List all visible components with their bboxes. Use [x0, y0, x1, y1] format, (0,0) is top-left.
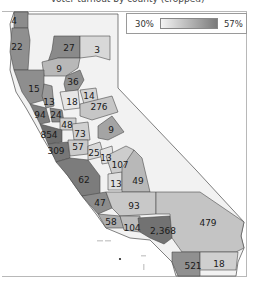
county-label-sacramento: 276 [90, 102, 107, 112]
county-label-tuolumne: 9 [108, 125, 114, 135]
county-label-humboldt: 22 [11, 42, 22, 52]
county-label-shasta: 9 [56, 64, 62, 74]
county-label-placer: 14 [83, 91, 95, 101]
county-label-tulare: 49 [132, 176, 144, 186]
county-label-butte: 36 [67, 77, 79, 87]
county-label-del-norte: 4 [11, 16, 17, 26]
county-label-ventura: 104 [123, 223, 140, 233]
county-label-stanislaus: 25 [88, 148, 99, 158]
county-label-san-diego: 521 [184, 261, 201, 271]
county-label-siskiyou: 27 [63, 43, 74, 53]
county-label-slo: 47 [94, 198, 105, 208]
county-label-kings: 13 [110, 179, 121, 189]
county-label-modoc: 3 [94, 45, 100, 55]
county-label-merced: 13 [100, 153, 111, 163]
county-label-san-bernardino: 479 [199, 218, 216, 228]
county-label-sonoma: 94 [34, 110, 46, 120]
county-label-santa-barbara: 58 [105, 217, 117, 227]
county-label-marin: 854 [40, 130, 57, 140]
county-label-mendocino: 15 [28, 84, 39, 94]
legend-min-label: 30% [135, 19, 154, 29]
county-label-los-angeles: 2,368 [150, 226, 176, 236]
county-label-monterey: 62 [78, 175, 89, 185]
county-label-alameda: 57 [72, 142, 83, 152]
california-county-map: 4222739153613181427694244885473309579251… [0, 0, 255, 289]
county-label-napa: 24 [50, 110, 62, 120]
county-label-kern: 93 [128, 201, 139, 211]
legend-gradient-bar [160, 18, 218, 29]
county-label-fresno: 107 [111, 160, 128, 170]
county-label-contra-costa: 73 [74, 129, 85, 139]
county-label-solano: 48 [61, 120, 73, 130]
county-label-sutter: 18 [66, 97, 78, 107]
county-label-san-mateo: 309 [47, 146, 64, 156]
channel-islands [97, 240, 146, 270]
county-label-imperial: 18 [213, 259, 225, 269]
legend-max-label: 57% [224, 19, 243, 29]
legend: 30% 57% [126, 13, 247, 34]
county-label-lake: 13 [43, 97, 54, 107]
